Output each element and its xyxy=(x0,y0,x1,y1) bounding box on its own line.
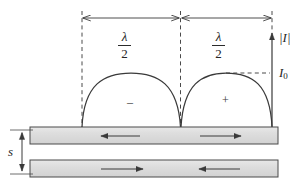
lambda-symbol-right: λ xyxy=(212,30,225,44)
current-standing-wave xyxy=(82,73,272,127)
right-lobe-sign: + xyxy=(222,93,229,108)
bottom-conductor xyxy=(30,160,278,177)
half-wavelength-label-left: λ 2 xyxy=(118,30,131,60)
figure-container: λ 2 λ 2 |I| I0 s – + xyxy=(0,0,308,185)
transmission-line-diagram xyxy=(0,0,308,185)
half-wavelength-label-right: λ 2 xyxy=(212,30,225,60)
current-peak-subscript: 0 xyxy=(283,71,288,81)
half-denominator-right: 2 xyxy=(212,47,225,61)
separation-label: s xyxy=(8,145,13,158)
current-peak-label: I0 xyxy=(279,66,288,81)
top-conductor xyxy=(30,127,278,144)
current-magnitude-axis-label: |I| xyxy=(279,31,290,44)
bottom-conductor-body xyxy=(30,160,278,177)
dashed-extension-lines xyxy=(82,11,272,127)
half-denominator-left: 2 xyxy=(118,47,131,61)
lambda-symbol-left: λ xyxy=(118,30,131,44)
left-lobe-sign: – xyxy=(127,95,133,110)
